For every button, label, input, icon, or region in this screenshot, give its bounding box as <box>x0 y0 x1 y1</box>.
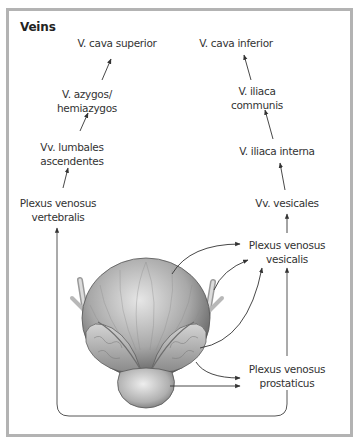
bladder-prostate-illustration <box>72 258 222 408</box>
arrow-azygos-to-cava-superior <box>102 59 111 80</box>
arrows-left-chain <box>63 59 111 188</box>
diagram-canvas <box>0 0 356 441</box>
arrow-vertebralis-to-lumbales <box>63 168 68 188</box>
arrows-right-chain <box>244 55 287 233</box>
arrow-lumbales-to-azygos <box>80 113 88 131</box>
arrow-seminal-to-prostaticus <box>196 362 240 378</box>
arrow-bladder-to-vesicalis-2 <box>214 260 248 290</box>
arrow-iliaca-communis-to-cava-inferior <box>244 55 251 80</box>
arrow-iliaca-interna-to-communis <box>265 110 273 139</box>
arrow-vesicales-to-iliaca-interna <box>280 163 285 190</box>
